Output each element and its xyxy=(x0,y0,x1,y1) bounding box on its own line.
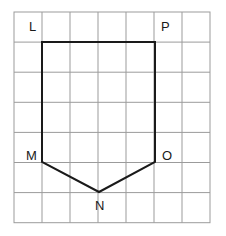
grid-border xyxy=(14,12,210,223)
grid-lines xyxy=(14,12,210,223)
vertex-label-n: N xyxy=(95,199,104,212)
vertex-label-o: O xyxy=(162,149,172,162)
grid-outer-border xyxy=(14,12,210,223)
vertex-label-m: M xyxy=(26,149,37,162)
geometry-figure-container: LMNOP xyxy=(0,0,226,236)
geometry-figure-svg xyxy=(0,0,226,236)
vertex-label-p: P xyxy=(161,20,170,33)
vertex-label-l: L xyxy=(29,20,36,33)
